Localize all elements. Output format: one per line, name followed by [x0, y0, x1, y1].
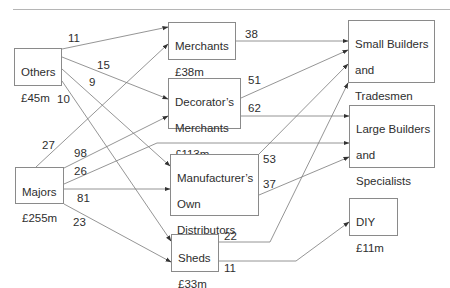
- flow-line-majors-sheds: [64, 204, 171, 262]
- flow-label-manufacturers-small: 53: [263, 153, 276, 165]
- node-large-builders-label-3: Specialists: [356, 175, 434, 188]
- node-manufacturers-label-2: Own: [177, 198, 258, 211]
- node-small-builders-label-3: Tradesmen: [355, 90, 434, 103]
- node-manufacturers-distributors: Manufacturer’s Own Distributors £90m: [170, 154, 259, 216]
- node-others-value: £45m: [21, 92, 61, 105]
- flow-line-manufacturers-small: [259, 64, 348, 154]
- flow-label-others-sheds: 10: [57, 93, 70, 105]
- node-small-builders-label-1: Small Builders: [355, 38, 434, 51]
- flow-label-majors-large: 26: [74, 165, 87, 177]
- node-small-builders-label-2: and: [355, 64, 434, 77]
- node-decorators-label-1: Decorator’s: [175, 96, 240, 109]
- node-sheds: Sheds £33m: [171, 234, 219, 272]
- node-decorators-merchants: Decorator’s Merchants £113m: [168, 78, 241, 129]
- node-others: Others £45m: [14, 48, 62, 86]
- node-sheds-label: Sheds: [178, 252, 218, 265]
- flow-label-merchants-small: 38: [245, 28, 258, 40]
- flow-label-majors-merchants: 27: [42, 139, 55, 151]
- node-decorators-label-2: Merchants: [175, 122, 240, 135]
- node-diy-label: DIY: [356, 216, 397, 229]
- node-majors-value: £255m: [22, 212, 63, 225]
- node-majors-label: Majors: [22, 186, 63, 199]
- flow-label-manufacturers-large: 37: [263, 178, 276, 190]
- flow-label-decorators-large: 62: [248, 102, 261, 114]
- node-others-label: Others: [21, 66, 61, 79]
- flow-label-others-decorators: 15: [97, 59, 110, 71]
- flow-label-others-merchants: 11: [68, 32, 80, 44]
- node-large-builders: Large Builders and Specialists £125m: [349, 105, 435, 168]
- flow-label-others-manufacturers: 9: [89, 76, 95, 88]
- node-manufacturers-label-1: Manufacturer’s: [177, 172, 258, 185]
- node-diy-value: £11m: [356, 242, 397, 255]
- flow-label-majors-sheds: 23: [73, 216, 86, 228]
- node-merchants-label: Merchants: [175, 40, 235, 53]
- node-large-builders-label-2: and: [356, 149, 434, 162]
- flow-line-others-decorators: [62, 57, 168, 99]
- flow-label-majors-decorators: 98: [74, 147, 87, 159]
- node-large-builders-label-1: Large Builders: [356, 123, 434, 136]
- node-majors: Majors £255m: [15, 167, 64, 204]
- flow-label-sheds-diy: 11: [224, 262, 236, 274]
- node-sheds-value: £33m: [178, 278, 218, 288]
- node-merchants: Merchants £38m: [168, 22, 236, 60]
- flow-label-majors-manufacturers: 81: [77, 192, 90, 204]
- node-diy: DIY £11m: [349, 198, 398, 236]
- flow-label-decorators-small: 51: [248, 74, 261, 86]
- node-small-builders: Small Builders and Tradesmen £164m: [348, 20, 435, 83]
- flow-label-sheds-small: 22: [224, 230, 237, 242]
